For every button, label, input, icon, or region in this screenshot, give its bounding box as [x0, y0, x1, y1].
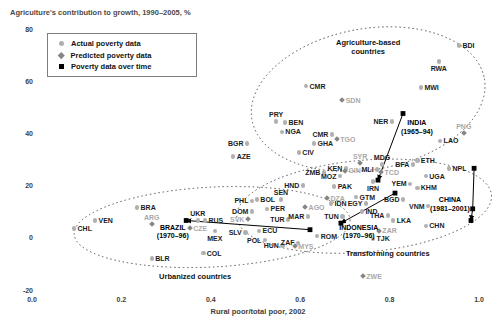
legend-label: Predicted poverty data — [71, 51, 152, 60]
country-label-CHL: CHL — [78, 224, 92, 233]
country-label-CIV: CIV — [302, 148, 314, 157]
time-point-INDIA — [401, 111, 406, 116]
country-label-BLR: BLR — [155, 254, 169, 263]
country-label-HUN: HUN — [264, 241, 279, 250]
time-label-INDIA: INDIA(1965–94) — [372, 119, 462, 136]
country-label-ETH: ETH — [421, 156, 435, 165]
legend-item-time: Poverty data over time — [59, 62, 190, 71]
point-CMR — [330, 132, 335, 137]
point-VEN — [93, 218, 98, 223]
point-BGR — [245, 141, 250, 146]
country-label-SYR: SYR — [330, 152, 390, 161]
country-label-CMR: CMR — [312, 130, 328, 139]
country-label-BOL: BOL — [260, 195, 275, 204]
country-label-BDI: BDI — [462, 41, 474, 50]
point-MAR — [306, 214, 311, 219]
country-label-PER: PER — [271, 204, 285, 213]
ellipse-agriculture-based — [240, 9, 496, 189]
country-label-MOZ: MOZ — [321, 172, 337, 181]
point-TUN — [340, 214, 345, 219]
country-label-TUN: TUN — [324, 212, 338, 221]
time-point-CHINA — [469, 218, 474, 223]
time-point-INDIA — [376, 178, 381, 183]
country-label-BGD: BGD — [384, 195, 400, 204]
country-label-TGO: TGO — [340, 135, 355, 144]
country-label-SVK: SVK — [230, 215, 244, 224]
country-label-UGA: UGA — [429, 172, 445, 181]
country-label-LAO: LAO — [444, 136, 459, 145]
point-IND — [360, 209, 365, 214]
legend-item-predicted: Predicted poverty data — [59, 51, 190, 60]
point-RUS — [203, 218, 208, 223]
point-NPL — [447, 166, 452, 171]
country-label-POL: POL — [247, 236, 261, 245]
point-CIV — [297, 150, 302, 155]
point-ETH — [415, 158, 420, 163]
country-label-ARG: ARG — [122, 213, 182, 222]
country-label-GIN: GIN — [348, 166, 360, 175]
time-label-BRAZIL: BRAZIL(1970–96) — [128, 224, 218, 241]
country-label-ECU: ECU — [263, 226, 278, 235]
country-label-COL: COL — [207, 249, 222, 258]
country-label-CHN: CHN — [429, 221, 444, 230]
country-label-MLI: MLI — [362, 165, 374, 174]
point-IRN — [371, 179, 376, 184]
country-label-SDN: SDN — [346, 96, 361, 105]
point-MWI — [419, 85, 424, 90]
country-label-ZMB: ZMB — [305, 168, 320, 177]
country-label-CMR: CMR — [310, 82, 326, 91]
point-BFA — [411, 162, 416, 167]
country-label-KHM: KHM — [421, 183, 437, 192]
point-BOL — [255, 197, 260, 202]
country-label-NGA: NGA — [285, 127, 301, 136]
point-UKR — [196, 218, 201, 223]
diamond-marker-icon — [58, 52, 64, 58]
point-BDI — [457, 43, 462, 48]
country-label-DZA: DZA — [331, 194, 345, 203]
country-label-BEN: BEN — [289, 118, 304, 127]
time-point-BRAZIL — [308, 227, 313, 232]
country-label-AZE: AZE — [237, 152, 251, 161]
point-COL — [201, 251, 206, 256]
country-label-ZAF: ZAF — [281, 238, 295, 247]
legend: Actual poverty data Predicted poverty da… — [47, 33, 197, 77]
country-label-MYS: MYS — [298, 242, 313, 251]
country-label-NPL: NPL — [453, 164, 467, 173]
group-label-transforming: Transforming countries — [318, 249, 458, 258]
legend-label: Poverty data over time — [71, 62, 151, 71]
time-label-CHINA: CHINA(1981–2001) — [405, 196, 495, 213]
group-label-agriculture-based: Agriculture-basedcountries — [298, 38, 438, 56]
point-DOM — [250, 209, 255, 214]
point-BLR — [150, 256, 155, 261]
country-label-MAR: MAR — [288, 212, 304, 221]
point-HND — [301, 183, 306, 188]
country-label-TUR: TUR — [270, 215, 284, 224]
point-RWA — [437, 59, 442, 64]
circle-marker-icon — [59, 41, 64, 46]
country-label-GHA: GHA — [318, 139, 334, 148]
point-BRA — [135, 205, 140, 210]
point-CHN — [424, 224, 429, 229]
country-label-ZWE: ZWE — [366, 272, 382, 281]
square-marker-icon — [59, 64, 64, 69]
country-label-EGY: EGY — [348, 199, 363, 208]
point-EGY — [364, 201, 369, 206]
country-label-RWA: RWA — [409, 64, 469, 73]
point-CHL — [72, 226, 77, 231]
point-THA — [386, 213, 391, 218]
country-label-MWI: MWI — [424, 83, 438, 92]
country-label-AGO: AGO — [309, 203, 325, 212]
country-label-VEN: VEN — [99, 216, 113, 225]
country-label-YEM: YEM — [392, 179, 407, 188]
country-label-TCD: TCD — [385, 168, 399, 177]
country-label-THA: THA — [370, 211, 384, 220]
time-point-CHINA — [472, 166, 477, 171]
country-label-PHL: PHL — [234, 196, 248, 205]
country-label-BRA: BRA — [141, 203, 156, 212]
time-point-BRAZIL — [184, 218, 189, 223]
group-label-urbanized: Urbanized countries — [125, 272, 265, 281]
point-PRY — [274, 119, 279, 124]
point-MDG — [380, 162, 385, 167]
country-label-BGR: BGR — [228, 139, 244, 148]
legend-label: Actual poverty data — [71, 39, 141, 48]
